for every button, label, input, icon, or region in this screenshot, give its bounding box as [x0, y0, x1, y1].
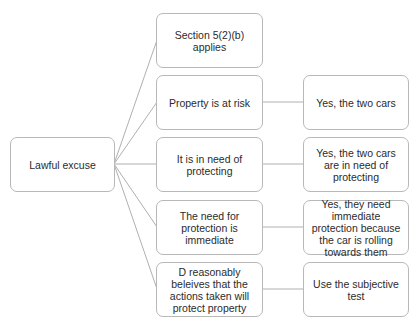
answer-node-need-is-immediate: Yes, they need immediate protection beca…	[303, 200, 409, 255]
connector-root-branch-4	[114, 164, 157, 227]
answer-node-label: Use the subjective test	[308, 278, 404, 302]
answer-node-property-at-risk: Yes, the two cars	[303, 75, 409, 130]
branch-node-section-5-2-b: Section 5(2)(b) applies	[156, 13, 263, 68]
branch-node-need-of-protecting: It is in need of protecting	[156, 137, 263, 192]
branch-node-label: Section 5(2)(b) applies	[161, 29, 258, 53]
branch-node-label: Property is at risk	[169, 97, 250, 109]
answer-node-reasonable-belief: Use the subjective test	[303, 262, 409, 317]
branch-node-label: D reasonably beleives that the actions t…	[161, 266, 258, 314]
branch-node-need-is-immediate: The need for protection is immediate	[156, 200, 263, 255]
answer-node-label: Yes, they need immediate protection beca…	[310, 198, 402, 258]
branch-node-label: It is in need of protecting	[167, 153, 252, 177]
root-node-lawful-excuse: Lawful excuse	[10, 137, 115, 192]
branch-node-property-at-risk: Property is at risk	[156, 75, 263, 130]
answer-node-label: Yes, the two cars	[316, 97, 396, 109]
answer-node-label: Yes, the two cars are in need of protect…	[308, 147, 404, 183]
connector-root-branch-5	[114, 164, 157, 289]
answer-node-need-of-protecting: Yes, the two cars are in need of protect…	[303, 137, 409, 192]
root-node-label: Lawful excuse	[29, 159, 96, 171]
branch-node-reasonable-belief: D reasonably beleives that the actions t…	[156, 262, 263, 317]
branch-node-label: The need for protection is immediate	[161, 210, 258, 246]
connector-root-branch-2	[114, 102, 157, 164]
connector-root-branch-1	[114, 40, 157, 164]
